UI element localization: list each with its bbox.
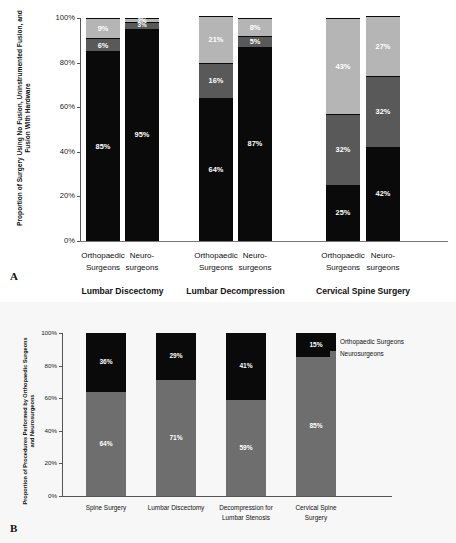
bar-segment-value-label: 15% [309,342,322,349]
bar-segment-value-label: 32% [336,146,351,153]
panel-b-y-axis-line [62,333,63,497]
stacked-bar[interactable]: 64%16%21% [199,18,233,241]
figure-root: Proportion of Surgery Using No Fusion, U… [0,0,456,543]
bar-segment-value-label: 36% [99,359,112,366]
bar-segment[interactable]: 16% [199,63,233,99]
bar-segment[interactable]: 87% [238,47,272,241]
bar-segment-neurosurgeons[interactable]: 85% [296,357,336,496]
stacked-bar[interactable]: 95%3%2% [125,18,159,241]
bar-segment[interactable]: 32% [366,76,400,147]
y-tick-label: 80% [35,362,57,369]
y-tick-label: 20% [35,459,57,466]
bar-segment[interactable]: 6% [86,38,120,51]
y-tick-label: 100% [35,329,57,336]
stacked-bar[interactable]: 85%6%9% [86,18,120,241]
bar-segment-value-label: 64% [209,166,224,173]
x-tick-label: Spine Surgery [70,503,142,513]
y-tick-label: 40% [49,147,75,156]
bar-segment[interactable]: 85% [86,51,120,241]
bar-segment-neurosurgeons[interactable]: 64% [86,392,126,496]
bar-segment-value-label: 9% [98,25,109,32]
y-tick-label: 60% [35,394,57,401]
panel-b-y-axis-title: Proportion of Procedures Performed by Or… [22,332,36,510]
y-tick-mark [77,107,80,108]
bar-segment[interactable]: 25% [326,185,360,241]
panel-a-y-axis-line [80,18,81,242]
legend-swatch-icon [330,339,336,345]
x-tick-label: Neuro- surgeons [109,250,175,273]
bar-segment[interactable]: 8% [238,18,272,36]
y-tick-mark [59,463,62,464]
bar-segment[interactable]: 64% [199,98,233,241]
bar-segment-value-label: 42% [376,190,391,197]
bar-segment-value-label: 5% [250,38,261,45]
y-tick-mark [77,18,80,19]
x-tick-label: Decompression for Lumbar Stenosis [210,503,282,522]
bar-segment-neurosurgeons[interactable]: 71% [156,380,196,496]
panel-b-x-axis-line [62,496,392,497]
bar-segment-value-label: 85% [309,423,322,430]
y-tick-mark [59,366,62,367]
stacked-bar[interactable]: 25%32%43% [326,18,360,241]
legend-swatch-icon [330,351,336,357]
y-tick-mark [77,152,80,153]
bar-segment-value-label: 43% [336,63,351,70]
bar-segment[interactable]: 32% [326,114,360,185]
legend-item[interactable]: Neurosurgeons [330,350,404,357]
panel-a-y-axis-title: Proportion of Surgery Using No Fusion, U… [16,4,32,232]
bar-segment-value-label: 32% [376,108,391,115]
x-tick-label: Neuro- surgeons [350,250,416,273]
bar-segment-value-label: 25% [336,209,351,216]
bar-segment-value-label: 6% [98,42,109,49]
bar-segment[interactable]: 43% [326,18,360,114]
bar-segment-orthopaedic-surgeons[interactable]: 29% [156,333,196,380]
bar-segment-value-label: 41% [239,363,252,370]
stacked-bar[interactable]: 42%32%27% [366,18,400,241]
bar-segment[interactable]: 95% [125,29,159,241]
x-tick-label: Cervical Spine Surgery [280,503,352,522]
y-tick-label: 0% [49,236,75,245]
panel-b-letter: B [10,522,17,534]
bar-segment-value-label: 21% [209,36,224,43]
y-tick-mark [59,431,62,432]
stacked-bar[interactable]: 87%5%8% [238,18,272,241]
y-tick-mark [59,398,62,399]
x-tick-label: Neuro- surgeons [222,250,288,273]
bar-segment[interactable]: 5% [238,36,272,47]
y-tick-label: 20% [49,191,75,200]
bar-segment-value-label: 85% [96,143,111,150]
y-tick-label: 80% [49,58,75,67]
y-tick-label: 60% [49,102,75,111]
y-tick-mark [59,333,62,334]
bar-segment-value-label: 59% [239,445,252,452]
stacked-bar[interactable]: 64%36% [86,333,126,496]
bar-segment[interactable]: 2% [125,18,159,22]
bar-segment[interactable]: 9% [86,18,120,38]
y-tick-label: 40% [35,427,57,434]
y-tick-mark [77,196,80,197]
panel-b-legend: Orthopaedic SurgeonsNeurosurgeons [330,338,404,362]
legend-item[interactable]: Orthopaedic Surgeons [330,338,404,345]
y-tick-mark [59,496,62,497]
y-tick-mark [77,63,80,64]
bar-segment-value-label: 64% [99,441,112,448]
group-label: Cervical Spine Surgery [293,286,433,296]
bar-segment[interactable]: 27% [366,16,400,76]
legend-label: Orthopaedic Surgeons [340,338,404,345]
legend-label: Neurosurgeons [340,350,384,357]
bar-segment-orthopaedic-surgeons[interactable]: 41% [226,333,266,400]
y-tick-mark [77,241,80,242]
bar-segment-value-label: 71% [169,435,182,442]
bar-segment-value-label: 2% [137,18,146,24]
x-tick-label: Lumbar Discectomy [140,503,212,513]
bar-segment[interactable]: 42% [366,147,400,241]
bar-segment-value-label: 29% [169,353,182,360]
bar-segment-neurosurgeons[interactable]: 59% [226,400,266,496]
bar-segment-value-label: 8% [250,24,261,31]
panel-a-x-axis-line [80,241,448,242]
bar-segment[interactable]: 21% [199,16,233,63]
stacked-bar[interactable]: 59%41% [226,333,266,496]
stacked-bar[interactable]: 71%29% [156,333,196,496]
bar-segment-orthopaedic-surgeons[interactable]: 36% [86,333,126,392]
bar-segment-value-label: 16% [209,77,224,84]
